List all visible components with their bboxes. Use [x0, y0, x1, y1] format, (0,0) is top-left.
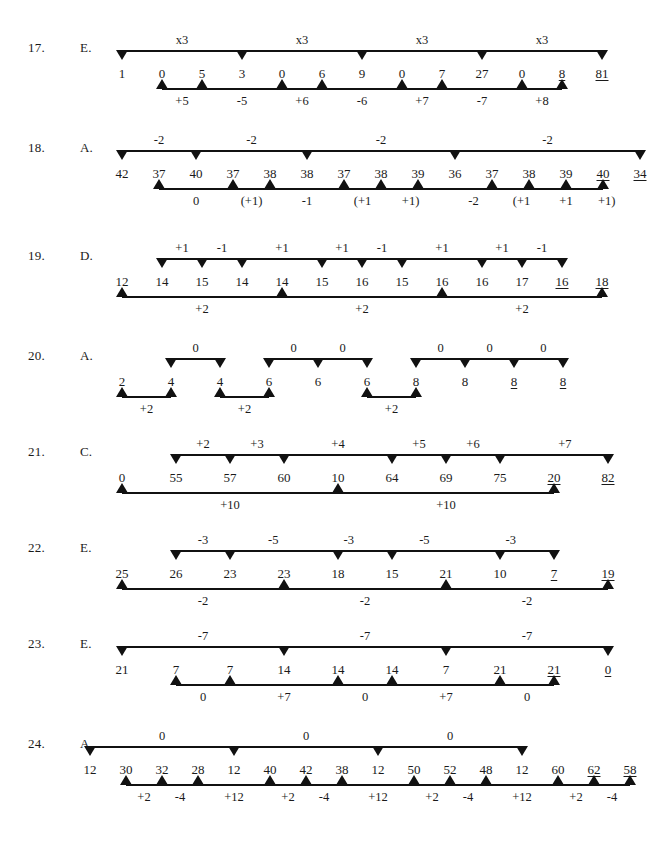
- bottom-operator-label: (+1: [513, 194, 530, 208]
- bottom-operator-label: -4: [319, 790, 329, 804]
- up-triangle-marker: [361, 387, 373, 397]
- bottom-operator-label: -2: [468, 194, 478, 208]
- up-triangle-marker: [224, 675, 236, 685]
- top-operator-label: -5: [268, 533, 278, 547]
- down-triangle-marker: [356, 258, 368, 268]
- down-triangle-marker: [116, 150, 128, 160]
- up-triangle-marker: [170, 675, 182, 685]
- worksheet-page: 17.E.x3x3x3x3105306907270881+5-5+6-6+7-7…: [0, 0, 666, 847]
- top-operator-label: -3: [506, 533, 516, 547]
- up-triangle-marker: [156, 775, 168, 785]
- up-triangle-marker: [263, 387, 275, 397]
- top-operator-label: -2: [246, 133, 256, 147]
- top-operator-label: 0: [540, 341, 546, 355]
- number-sequence: 12303228124042381250524812606258: [0, 762, 666, 780]
- sequence-number: 57: [224, 470, 237, 485]
- sequence-number: 6: [315, 374, 322, 389]
- problem-row: 22.E.-3-5-3-5-32526232318152110719-2-2-2: [0, 528, 666, 628]
- bottom-operator-label: -4: [463, 790, 473, 804]
- down-triangle-marker: [634, 150, 646, 160]
- top-operator-label: +1: [175, 241, 188, 255]
- sequence-number: 9: [359, 66, 366, 81]
- top-operator-label: -7: [522, 629, 532, 643]
- down-triangle-marker: [372, 746, 384, 756]
- down-triangle-marker: [556, 258, 568, 268]
- down-triangle-marker: [602, 454, 614, 464]
- up-triangle-marker: [332, 675, 344, 685]
- down-triangle-marker: [236, 50, 248, 60]
- up-triangle-marker: [214, 387, 226, 397]
- sequence-diagram: -3-5-3-5-32526232318152110719-2-2-2: [0, 528, 666, 628]
- up-triangle-marker: [336, 775, 348, 785]
- sequence-number: 15: [316, 274, 329, 289]
- down-triangle-marker: [116, 50, 128, 60]
- problem-row: 20.A.0000002446668888+2+2+2: [0, 336, 666, 436]
- bottom-operator-label: +2: [140, 402, 153, 416]
- sequence-number: 15: [196, 274, 209, 289]
- sequence-number: 60: [278, 470, 291, 485]
- bottom-operator-label: +7: [415, 94, 428, 108]
- top-operator-label: +1: [335, 241, 348, 255]
- down-triangle-marker: [557, 358, 569, 368]
- sequence-number: 23: [224, 566, 237, 581]
- top-connector-bar: [90, 746, 522, 748]
- down-triangle-marker: [440, 646, 452, 656]
- bottom-operator-label: +12: [512, 790, 532, 804]
- bottom-operator-label: -2: [360, 594, 370, 608]
- top-operator-label: x3: [296, 33, 309, 47]
- up-triangle-marker: [120, 775, 132, 785]
- sequence-number: 26: [170, 566, 183, 581]
- sequence-number: 27: [476, 66, 489, 81]
- top-operator-label: -7: [198, 629, 208, 643]
- up-triangle-marker: [412, 179, 424, 189]
- bottom-operator-label: +2: [238, 402, 251, 416]
- sequence-diagram: +2+3+4+5+6+70555760106469752082+10+10: [0, 432, 666, 532]
- top-operator-label: -3: [198, 533, 208, 547]
- down-triangle-marker: [190, 150, 202, 160]
- top-operator-label: -5: [419, 533, 429, 547]
- up-triangle-marker: [548, 675, 560, 685]
- down-triangle-marker: [508, 358, 520, 368]
- sequence-number: 12: [228, 762, 241, 777]
- sequence-diagram: x3x3x3x3105306907270881+5-5+6-6+7-7+8: [0, 28, 666, 128]
- top-operator-label: 0: [159, 729, 165, 743]
- top-operator-label: +3: [250, 437, 263, 451]
- down-triangle-marker: [170, 550, 182, 560]
- bottom-operator-label: (+1): [241, 194, 263, 208]
- bottom-operator-label: +2: [281, 790, 294, 804]
- top-operator-label: +2: [196, 437, 209, 451]
- top-operator-label: 0: [192, 341, 198, 355]
- sequence-number: 7: [551, 566, 558, 581]
- sequence-number: 64: [386, 470, 399, 485]
- top-operator-label: -1: [217, 241, 227, 255]
- top-operator-label: 0: [447, 729, 453, 743]
- bottom-operator-label: +7: [439, 690, 452, 704]
- top-connector-bar: [122, 646, 608, 648]
- bottom-operator-label: -5: [237, 94, 247, 108]
- up-triangle-marker: [436, 79, 448, 89]
- up-triangle-marker: [165, 387, 177, 397]
- sequence-number: 10: [494, 566, 507, 581]
- sequence-number: 36: [449, 166, 462, 181]
- sequence-number: 12: [372, 762, 385, 777]
- top-operator-label: +4: [331, 437, 344, 451]
- down-triangle-marker: [301, 150, 313, 160]
- bottom-operator-label: +2: [195, 302, 208, 316]
- up-triangle-marker: [156, 79, 168, 89]
- top-operator-label: 0: [290, 341, 296, 355]
- bottom-operator-label: +10: [220, 498, 240, 512]
- problem-row: 21.C.+2+3+4+5+6+70555760106469752082+10+…: [0, 432, 666, 532]
- up-triangle-marker: [375, 179, 387, 189]
- up-triangle-marker: [597, 179, 609, 189]
- top-operator-label: +1: [275, 241, 288, 255]
- up-triangle-marker: [624, 775, 636, 785]
- bottom-operator-label: (+1: [354, 194, 371, 208]
- up-triangle-marker: [276, 79, 288, 89]
- down-triangle-marker: [396, 258, 408, 268]
- top-operator-label: +5: [412, 437, 425, 451]
- problem-row: 23.E.-7-7-721771414147212100+70+70: [0, 624, 666, 724]
- down-triangle-marker: [386, 454, 398, 464]
- up-triangle-marker: [408, 775, 420, 785]
- top-operator-label: x3: [536, 33, 549, 47]
- top-operator-label: +1: [495, 241, 508, 255]
